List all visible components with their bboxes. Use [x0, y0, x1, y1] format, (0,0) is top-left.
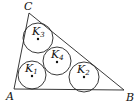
circle-k1: K1	[18, 61, 46, 89]
circle-label: K2	[76, 63, 90, 77]
vertex-label-b: B	[125, 91, 134, 104]
circle-k3: K3	[23, 23, 53, 53]
geometry-diagram: K1 K2 K3 K4 A B C	[0, 0, 139, 104]
circle-label: K1	[24, 62, 38, 76]
center-dot	[56, 61, 58, 63]
vertex-label-c: C	[24, 0, 33, 13]
circle-label: K3	[31, 25, 45, 39]
center-dot	[37, 38, 39, 40]
vertex-label-a: A	[5, 90, 14, 103]
circle-k4: K4	[43, 47, 71, 75]
circle-k2: K2	[69, 62, 99, 92]
circle-label: K4	[50, 48, 64, 62]
